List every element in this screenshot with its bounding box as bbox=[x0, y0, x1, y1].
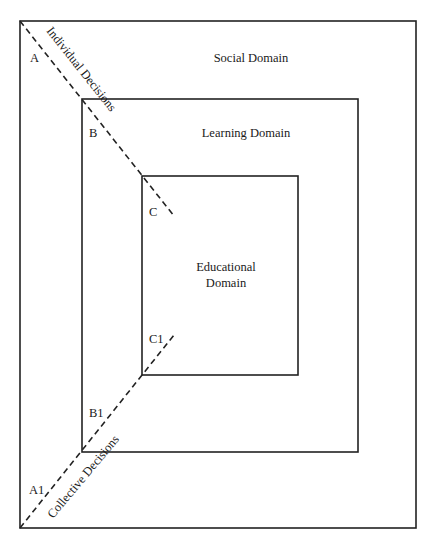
point-label-b: B bbox=[89, 126, 97, 140]
social-domain-label: Social Domain bbox=[214, 51, 289, 65]
educational-domain-label-line1: Educational bbox=[196, 260, 256, 274]
point-label-a: A bbox=[30, 51, 39, 65]
point-label-c: C bbox=[149, 205, 157, 219]
collective-decisions-line bbox=[20, 335, 174, 528]
educational-domain-label-line2: Domain bbox=[206, 276, 247, 290]
individual-decisions-line bbox=[20, 21, 174, 216]
point-label-a1: A1 bbox=[29, 483, 44, 497]
collective-decisions-label: Collective Decisions bbox=[45, 432, 123, 521]
point-label-b1: B1 bbox=[89, 406, 104, 420]
diagram-canvas: Social Domain Learning Domain Educationa… bbox=[0, 0, 437, 546]
learning-domain-label: Learning Domain bbox=[202, 126, 291, 140]
nested-domains-diagram: Social Domain Learning Domain Educationa… bbox=[0, 0, 437, 546]
point-label-c1: C1 bbox=[149, 332, 164, 346]
